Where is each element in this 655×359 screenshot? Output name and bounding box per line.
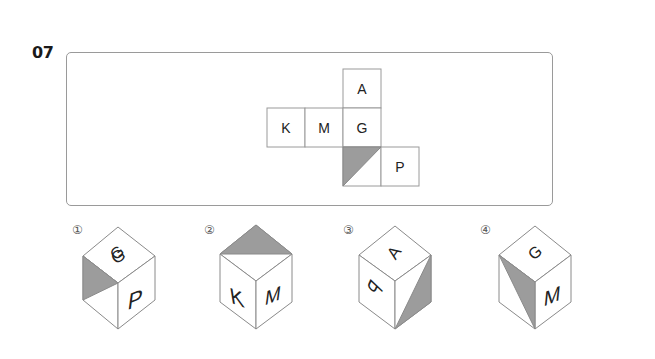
net-label-k: K: [281, 120, 291, 136]
option-1-cube[interactable]: G: [83, 227, 155, 329]
net-label-p: P: [395, 159, 404, 175]
option-2-cube[interactable]: [220, 225, 292, 329]
option-4-cube[interactable]: [499, 226, 571, 329]
option-4-number[interactable]: ④: [480, 223, 491, 237]
option-2-number[interactable]: ②: [204, 223, 215, 237]
option-1-number[interactable]: ①: [72, 223, 83, 237]
net-label-g: G: [357, 120, 368, 136]
option-3-number[interactable]: ③: [343, 223, 354, 237]
net-label-a: A: [357, 81, 367, 97]
net-label-m: M: [318, 120, 330, 136]
